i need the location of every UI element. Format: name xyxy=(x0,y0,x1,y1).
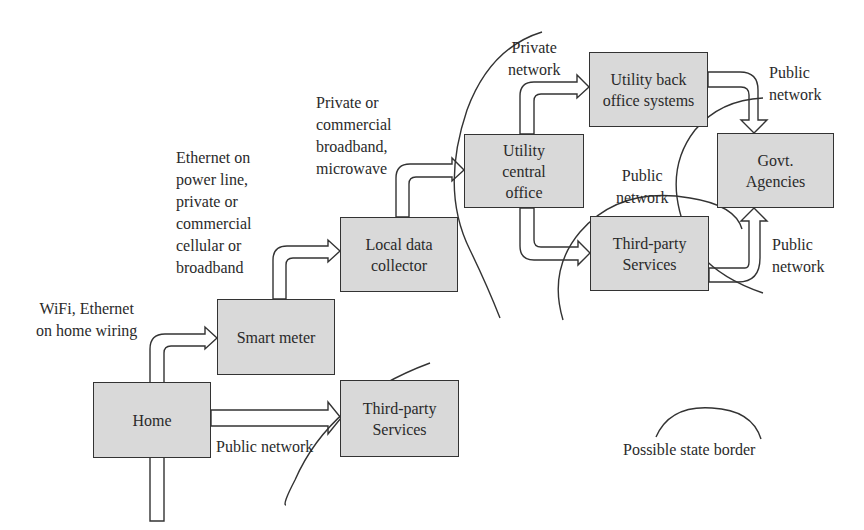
label-thirdparty-to-govt: Public network xyxy=(772,234,824,278)
label-meter-to-collector: Ethernet on power line, private or comme… xyxy=(176,147,252,279)
node-govt-agencies: Govt. Agencies xyxy=(717,133,834,208)
legend-state-border-label: Possible state border xyxy=(623,439,755,461)
label-central-to-thirdparty: Public network xyxy=(616,165,668,209)
node-home: Home xyxy=(93,382,211,458)
node-smart-meter: Smart meter xyxy=(217,299,335,375)
arrow-central-to-backoffice xyxy=(520,75,589,134)
label-central-to-backoffice: Private network xyxy=(508,37,560,81)
label-collector-to-central: Private or commercial broadband, microwa… xyxy=(316,92,392,180)
label-backoffice-to-govt: Public network xyxy=(769,62,821,106)
node-utility-central-office: Utility central office xyxy=(464,134,584,208)
label-home-to-thirdparty: Public network xyxy=(216,436,313,458)
arrow-meter-to-collector xyxy=(273,240,340,299)
node-utility-back-office: Utility back office systems xyxy=(589,52,708,127)
legend-border-arc xyxy=(656,408,761,439)
node-third-party-services-utility: Third-party Services xyxy=(590,216,709,291)
node-third-party-services-home: Third-party Services xyxy=(340,380,459,457)
arrow-central-to-thirdparty xyxy=(520,208,590,265)
arrow-home-to-thirdparty xyxy=(211,402,341,434)
node-local-data-collector: Local data collector xyxy=(340,217,458,292)
label-home-to-meter: WiFi, Ethernet on home wiring xyxy=(36,298,137,342)
smart-grid-data-flow-diagram: Home Smart meter Local data collector Th… xyxy=(0,0,864,530)
